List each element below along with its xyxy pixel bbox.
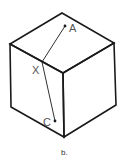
point-a-dot — [64, 25, 67, 28]
cube-diagram: A X C b. — [0, 0, 122, 163]
point-a-label: A — [69, 22, 77, 34]
point-c-label: C — [43, 116, 51, 128]
cube-left-face — [10, 44, 64, 137]
path-segment-a-x — [42, 26, 65, 62]
figure-caption: b. — [61, 148, 68, 157]
point-c-dot — [54, 120, 57, 123]
cube-right-face — [63, 43, 116, 137]
cube-top-face — [10, 13, 114, 73]
point-x-label: X — [32, 64, 40, 76]
path-segment-x-c — [42, 62, 55, 121]
